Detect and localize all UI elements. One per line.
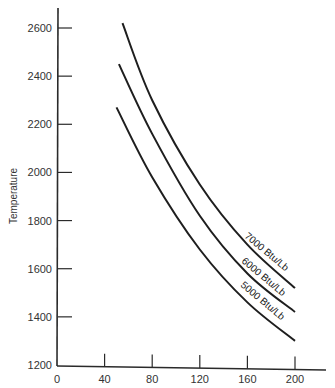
x-tick-label: 120 xyxy=(191,373,209,385)
axes xyxy=(57,8,326,370)
y-ticks: 12001400160018002000220024002600 xyxy=(28,22,72,371)
y-tick-label: 2600 xyxy=(28,22,52,34)
y-tick-label: 1200 xyxy=(28,359,52,371)
y-tick-label: 1800 xyxy=(28,215,52,227)
y-tick-label: 2400 xyxy=(28,70,52,82)
y-tick-label: 1400 xyxy=(28,311,52,323)
y-tick-label: 2000 xyxy=(28,166,52,178)
x-tick-label: 200 xyxy=(286,373,304,385)
x-tick-label: 40 xyxy=(98,373,110,385)
x-tick-label: 160 xyxy=(238,373,256,385)
y-tick-label: 2200 xyxy=(28,118,52,130)
y-tick-label: 1600 xyxy=(28,263,52,275)
curves xyxy=(117,23,296,341)
x-tick-label: 0 xyxy=(54,373,60,385)
temperature-chart: 12001400160018002000220024002600 0408012… xyxy=(0,0,335,388)
x-tick-label: 80 xyxy=(146,373,158,385)
y-axis xyxy=(57,8,58,366)
y-axis-label: Temperature xyxy=(8,167,19,224)
x-axis xyxy=(57,366,326,370)
